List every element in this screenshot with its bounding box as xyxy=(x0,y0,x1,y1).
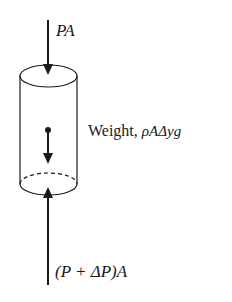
weight-label: Weight, ρAΔyg xyxy=(88,122,181,140)
bottom-force-arrow-icon xyxy=(43,187,53,285)
bottom-force-label: (P + ΔP)A xyxy=(55,262,127,282)
weight-arrow-icon xyxy=(43,127,53,164)
diagram-graphics xyxy=(0,0,232,302)
weight-label-expression: ρAΔyg xyxy=(142,123,181,139)
bottom-face-hidden xyxy=(20,173,77,184)
top-force-label: PA xyxy=(56,21,75,41)
top-force-arrow-icon xyxy=(43,20,53,75)
weight-label-prefix: Weight, xyxy=(88,122,142,139)
diagram-canvas: PA Weight, ρAΔyg (P + ΔP)A xyxy=(0,0,232,302)
